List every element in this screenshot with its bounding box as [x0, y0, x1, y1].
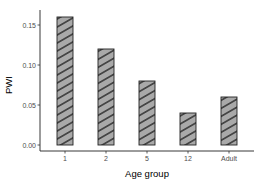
y-tick-label: 0.00	[22, 142, 36, 149]
bar-1	[57, 17, 73, 145]
bar-2	[98, 49, 114, 145]
x-tick-label: 2	[104, 155, 108, 162]
x-tick-label: 1	[63, 155, 67, 162]
bar-5	[139, 81, 155, 145]
y-tick-label: 0.05	[22, 102, 36, 109]
bar-adult	[221, 97, 237, 145]
bar-12	[180, 113, 196, 145]
x-tick-label: 5	[145, 155, 149, 162]
x-axis: 12512Adult	[40, 151, 254, 162]
y-axis-title: PWI	[3, 76, 14, 94]
bar-chart: 0.000.050.100.15 12512Adult Age group PW…	[0, 0, 261, 184]
y-tick-label: 0.15	[22, 22, 36, 29]
x-tick-label: Adult	[221, 155, 237, 162]
x-axis-title: Age group	[125, 168, 169, 179]
y-axis: 0.000.050.100.15	[22, 10, 40, 151]
y-tick-label: 0.10	[22, 62, 36, 69]
x-tick-label: 12	[184, 155, 192, 162]
bars-group	[57, 17, 237, 145]
